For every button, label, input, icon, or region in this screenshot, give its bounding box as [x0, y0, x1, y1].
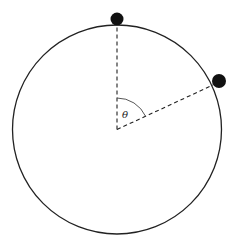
top-ball — [111, 13, 124, 26]
angled-radius — [117, 85, 213, 130]
theta-label: θ — [122, 109, 128, 120]
right-ball — [212, 74, 226, 88]
circular-motion-diagram: θ — [0, 0, 235, 241]
